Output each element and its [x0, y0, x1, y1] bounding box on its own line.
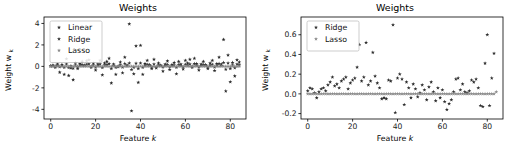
x-axis-label-right: Feature k [377, 134, 414, 143]
x-tick-label: 0 [305, 122, 310, 131]
chart-title-left: Weights [119, 2, 157, 13]
y-tick-label: 0.4 [284, 50, 296, 59]
chart-svg-right: Weights 020406080-0.20.00.20.40.6 RidgeL… [257, 0, 513, 150]
x-tick-label: 40 [393, 122, 403, 131]
x-tick-label: 80 [482, 122, 492, 131]
x-tick-label: 40 [136, 122, 146, 131]
y-tick-label: 2 [35, 41, 40, 50]
x-tick-label: 60 [438, 122, 448, 131]
y-tick-label: 0 [35, 62, 40, 71]
y-axis-label-right: Weight w k [261, 48, 271, 91]
x-tick-label: 20 [91, 122, 101, 131]
x-tick-label: 60 [181, 122, 191, 131]
legend-label-linear[interactable]: Linear [68, 23, 93, 32]
chart-panel-left: Weights 020406080-4-2024 LinearRidgeLass… [0, 0, 256, 150]
y-tick-label: -0.2 [282, 109, 297, 118]
figure-container: Weights 020406080-4-2024 LinearRidgeLass… [0, 0, 513, 150]
legend-label-lasso[interactable]: Lasso [325, 35, 347, 44]
y-tick-label: 0.0 [284, 90, 296, 99]
legend-label-lasso[interactable]: Lasso [68, 46, 90, 55]
legend-label-ridge[interactable]: Ridge [68, 35, 90, 44]
legend-right[interactable]: RidgeLasso [307, 21, 359, 51]
chart-title-right: Weights [376, 2, 414, 13]
x-tick-label: 80 [225, 122, 235, 131]
chart-svg-left: Weights 020406080-4-2024 LinearRidgeLass… [0, 0, 256, 150]
x-axis-label-left: Feature k [120, 134, 157, 143]
y-axis-label-left: Weight w k [4, 48, 14, 91]
legend-left[interactable]: LinearRidgeLasso [50, 21, 102, 63]
legend-label-ridge[interactable]: Ridge [325, 23, 347, 32]
chart-panel-right: Weights 020406080-0.20.00.20.40.6 RidgeL… [257, 0, 513, 150]
y-tick-label: -4 [32, 105, 40, 114]
y-tick-label: 0.6 [284, 30, 296, 39]
y-tick-label: -2 [32, 84, 40, 93]
x-tick-label: 0 [48, 122, 53, 131]
y-tick-label: 0.2 [284, 70, 296, 79]
y-tick-label: 4 [35, 19, 40, 28]
x-tick-label: 20 [348, 122, 358, 131]
